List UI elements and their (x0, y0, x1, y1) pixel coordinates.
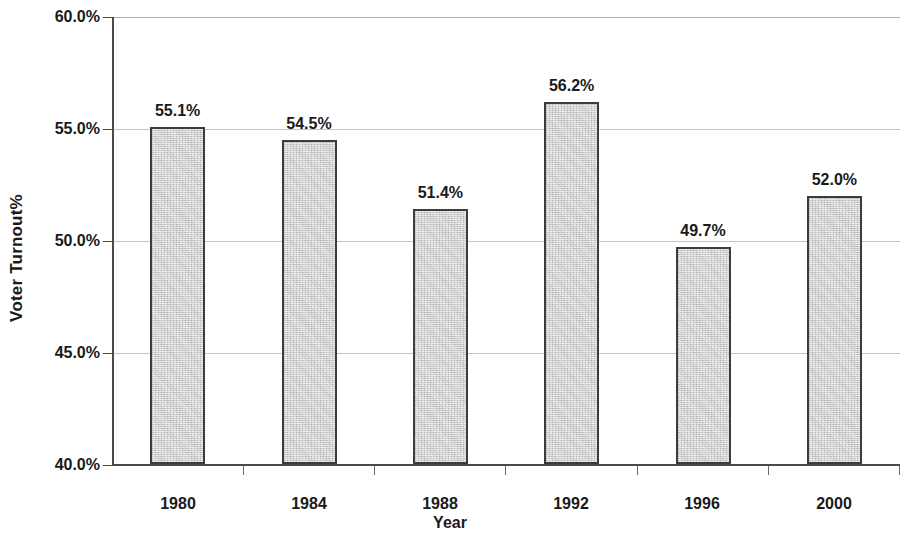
x-tick-label-1992: 1992 (553, 495, 589, 513)
x-tick-mark-1 (243, 466, 244, 475)
x-tick-label-1996: 1996 (684, 495, 720, 513)
y-axis-line (112, 17, 114, 466)
y-tick-label-60: 60.0% (18, 8, 100, 26)
y-tick-label-50: 50.0% (18, 232, 100, 250)
y-tick-mark-55 (103, 129, 112, 130)
bar-1980 (150, 127, 205, 464)
y-tick-label-45: 45.0% (18, 344, 100, 362)
bar-value-label-1988: 51.4% (418, 184, 463, 202)
bar-1996 (676, 247, 731, 464)
gridline-45 (112, 353, 900, 354)
y-tick-label-40: 40.0% (18, 456, 100, 474)
x-tick-label-1988: 1988 (422, 495, 458, 513)
y-tick-mark-60 (103, 17, 112, 18)
x-tick-mark-5 (768, 466, 769, 475)
x-axis-title: Year (0, 514, 900, 532)
gridline-50 (112, 241, 900, 242)
bar-1984 (282, 140, 337, 464)
y-tick-label-55: 55.0% (18, 120, 100, 138)
bar-1988 (413, 209, 468, 464)
bar-value-label-1996: 49.7% (680, 222, 725, 240)
x-axis-line (112, 464, 900, 466)
x-tick-label-1984: 1984 (291, 495, 327, 513)
bar-1992 (544, 102, 599, 464)
plot-area: 55.1% 54.5% 51.4% 56.2% 49.7% 52.0% 1980… (112, 17, 900, 466)
x-tick-mark-2 (374, 466, 375, 475)
gridline-55 (112, 129, 900, 130)
bar-value-label-1984: 54.5% (286, 115, 331, 133)
y-tick-mark-45 (103, 353, 112, 354)
bar-value-label-2000: 52.0% (812, 171, 857, 189)
bar-chart: Voter Turnout% 60.0% 55.0% 50.0% 45.0% 4… (0, 0, 900, 539)
y-tick-mark-50 (103, 241, 112, 242)
y-tick-mark-40 (103, 465, 112, 466)
x-tick-label-2000: 2000 (816, 495, 852, 513)
bar-2000 (807, 196, 862, 464)
x-tick-label-1980: 1980 (160, 495, 196, 513)
x-tick-mark-3 (505, 466, 506, 475)
x-tick-mark-4 (637, 466, 638, 475)
bar-value-label-1980: 55.1% (155, 102, 200, 120)
gridline-60 (112, 17, 900, 18)
bar-value-label-1992: 56.2% (549, 77, 594, 95)
